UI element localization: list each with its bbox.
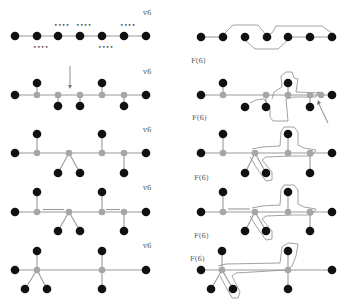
v6-label: v6	[142, 242, 152, 250]
right-panel-2: F(6)	[192, 72, 336, 123]
f6-label: F(6)	[190, 255, 205, 263]
dots-marker: ••••	[33, 43, 49, 50]
right-panel-3: F(6)	[194, 127, 336, 182]
right-panel-4: F(6)	[194, 185, 336, 240]
v6-label: v6	[142, 126, 152, 134]
v6-label: v6	[142, 184, 152, 192]
dots-marker: ••••	[76, 21, 92, 28]
left-panel-3: v6	[11, 126, 152, 177]
left-panel-1: •••• •••• •••• •••• •••• v6	[11, 9, 152, 50]
left-panel-5: v6	[11, 242, 152, 293]
dots-marker: ••••	[120, 21, 136, 28]
f6-label: F(6)	[194, 174, 209, 182]
dots-marker: ••••	[54, 21, 70, 28]
v6-label: v6	[142, 68, 152, 76]
f6-label: F(6)	[191, 57, 206, 65]
right-panel-5: F(6)	[190, 243, 336, 298]
dots-marker: ••••	[98, 43, 114, 50]
right-panel-1: F(6)	[191, 25, 336, 65]
f6-label: F(6)	[192, 114, 207, 122]
diagram-canvas: •••• •••• •••• •••• •••• v6 v6	[0, 0, 344, 305]
f6-label: F(6)	[194, 232, 209, 240]
left-panel-2: v6	[11, 66, 152, 110]
left-panel-4: v6	[11, 184, 152, 235]
v6-label: v6	[142, 9, 152, 17]
